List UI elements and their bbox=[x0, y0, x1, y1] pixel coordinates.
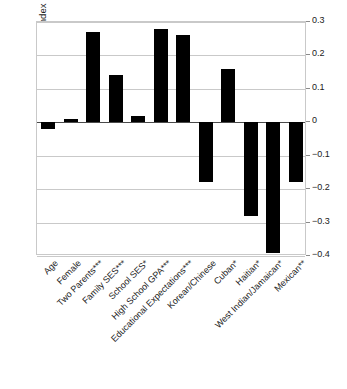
y-tick-label: −0.3 bbox=[312, 216, 344, 226]
y-tick-label: 0 bbox=[312, 115, 344, 125]
bar bbox=[109, 75, 123, 122]
y-tick-mark bbox=[306, 188, 310, 189]
bar bbox=[154, 29, 168, 123]
y-tick-mark bbox=[306, 88, 310, 89]
chart-figure: Net Gain or Loss in the Downward Assimil… bbox=[0, 0, 347, 389]
bar bbox=[64, 119, 78, 122]
bar bbox=[176, 35, 190, 122]
bar bbox=[41, 122, 55, 129]
y-tick-label: 0.2 bbox=[312, 48, 344, 58]
y-tick-label: −0.4 bbox=[312, 249, 344, 259]
y-tick-mark bbox=[306, 121, 310, 122]
bar bbox=[199, 122, 213, 182]
bar bbox=[221, 69, 235, 122]
y-tick-mark bbox=[306, 54, 310, 55]
y-tick-label: 0.3 bbox=[312, 15, 344, 25]
y-tick-mark bbox=[306, 255, 310, 256]
y-tick-label: −0.2 bbox=[312, 182, 344, 192]
y-tick-label: 0.1 bbox=[312, 82, 344, 92]
bar bbox=[289, 122, 303, 182]
y-tick-label: −0.1 bbox=[312, 149, 344, 159]
bar bbox=[86, 32, 100, 122]
gridline bbox=[37, 256, 305, 257]
plot-area bbox=[36, 21, 306, 255]
bar bbox=[131, 116, 145, 123]
x-tick-label: Age bbox=[42, 258, 60, 276]
bar bbox=[244, 122, 258, 216]
bar bbox=[266, 122, 280, 252]
y-tick-mark bbox=[306, 21, 310, 22]
y-tick-mark bbox=[306, 155, 310, 156]
y-tick-mark bbox=[306, 222, 310, 223]
bar-series bbox=[37, 22, 305, 254]
